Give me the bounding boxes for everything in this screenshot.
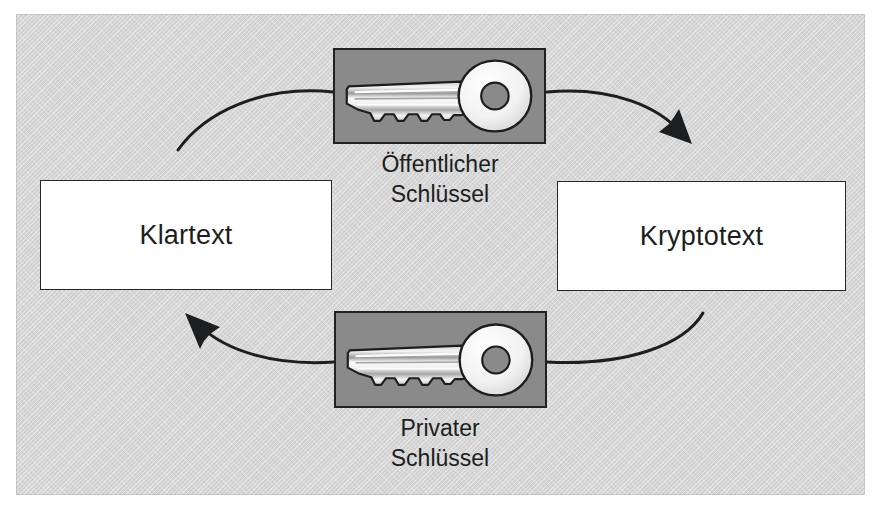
public-key-caption-line1: Öffentlicher: [290, 150, 590, 180]
ciphertext-label: Kryptotext: [640, 223, 764, 250]
private-key-caption: Privater Schlüssel: [290, 414, 590, 474]
public-key-caption: Öffentlicher Schlüssel: [290, 150, 590, 210]
plaintext-box: Klartext: [40, 180, 332, 290]
public-key-panel: [333, 48, 546, 144]
private-key-caption-line1: Privater: [290, 414, 590, 444]
figure-root: Klartext Kryptotext: [0, 0, 877, 513]
ciphertext-box: Kryptotext: [557, 181, 846, 291]
key-icon: [336, 313, 545, 406]
key-icon: [335, 50, 544, 142]
private-key-panel: [334, 311, 547, 408]
private-key-caption-line2: Schlüssel: [290, 444, 590, 474]
plaintext-label: Klartext: [139, 222, 232, 249]
public-key-caption-line2: Schlüssel: [290, 180, 590, 210]
